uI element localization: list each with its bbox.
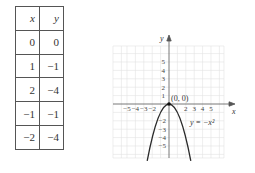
svg-text:−5: −5 (123, 105, 131, 113)
y-axis-label: y (159, 34, 164, 43)
svg-text:3: 3 (162, 75, 166, 83)
svg-text:−4: −4 (159, 134, 167, 142)
svg-text:4: 4 (201, 105, 205, 113)
x-axis-arrow-icon (229, 102, 235, 106)
svg-text:5: 5 (162, 58, 166, 66)
parabola-graph: x y −5 −4 −3 −2 2 3 4 5 1 2 3 4 5 −2 −3 … (0, 0, 255, 173)
svg-text:5: 5 (209, 105, 213, 113)
x-axis-label: x (231, 107, 236, 116)
svg-text:2: 2 (162, 84, 166, 92)
svg-text:3: 3 (192, 105, 196, 113)
svg-text:2: 2 (184, 105, 188, 113)
x-tick-labels: −5 −4 −3 −2 2 3 4 5 (123, 105, 213, 113)
equation-label: y = −x² (189, 118, 215, 127)
svg-text:−2: −2 (159, 117, 167, 125)
y-axis-arrow-icon (167, 35, 171, 41)
svg-text:−2: −2 (148, 105, 156, 113)
svg-text:−3: −3 (140, 105, 148, 113)
svg-text:−4: −4 (132, 105, 140, 113)
svg-text:4: 4 (162, 67, 166, 75)
vertex-label: (0, 0) (171, 94, 189, 103)
svg-text:1: 1 (162, 92, 166, 100)
svg-text:−3: −3 (159, 126, 167, 134)
svg-text:−5: −5 (159, 142, 167, 150)
grid (113, 46, 224, 158)
